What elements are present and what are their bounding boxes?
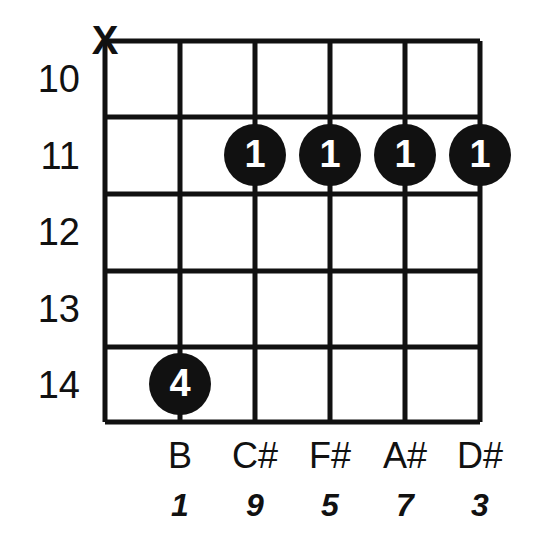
fret-number-label-13: 13 [10, 290, 80, 328]
finger-dot-string5-fret14[interactable]: 4 [149, 353, 211, 415]
string-note-label-asharp: A# [365, 438, 445, 474]
string-note-label-csharp: C# [215, 438, 295, 474]
finger-dot-label: 1 [469, 135, 490, 173]
chord-diagram: X 10 11 12 13 14 1 1 1 1 4 B C# F# A# D#… [0, 0, 539, 554]
fret-number-label-12: 12 [10, 213, 80, 251]
finger-dot-string1-fret11[interactable]: 1 [449, 124, 511, 186]
string-interval-label-7: 7 [365, 489, 445, 521]
mute-marker-x-icon: X [85, 20, 125, 60]
finger-dot-label: 1 [244, 135, 265, 173]
string-interval-label-5: 5 [290, 489, 370, 521]
string-note-label-fsharp: F# [290, 438, 370, 474]
finger-dot-string2-fret11[interactable]: 1 [374, 124, 436, 186]
string-interval-label-1: 1 [140, 489, 220, 521]
finger-dot-label: 4 [169, 364, 190, 402]
finger-dot-label: 1 [394, 135, 415, 173]
string-note-label-dsharp: D# [440, 438, 520, 474]
finger-dot-string3-fret11[interactable]: 1 [299, 124, 361, 186]
string-note-label-b: B [140, 438, 220, 474]
string-interval-label-3: 3 [440, 489, 520, 521]
finger-dot-string4-fret11[interactable]: 1 [224, 124, 286, 186]
fret-number-label-14: 14 [10, 366, 80, 404]
string-interval-label-9: 9 [215, 489, 295, 521]
finger-dot-label: 1 [319, 135, 340, 173]
fret-number-label-11: 11 [10, 137, 80, 175]
fret-number-label-10: 10 [10, 60, 80, 98]
